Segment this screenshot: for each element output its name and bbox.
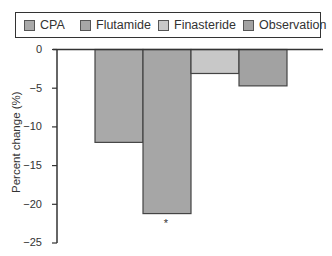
plot-area: * <box>0 0 332 256</box>
bars <box>95 50 287 214</box>
significance-asterisk: * <box>164 217 169 229</box>
bar-observation <box>239 50 287 86</box>
bar-finasteride <box>191 50 239 74</box>
bar-flutamide <box>143 50 191 214</box>
bar-cpa <box>95 50 143 143</box>
